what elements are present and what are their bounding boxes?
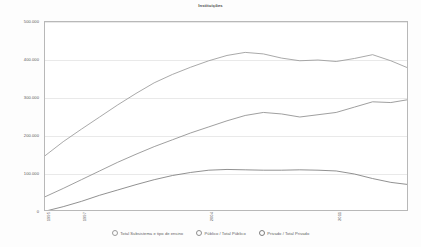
legend-item[interactable]: Privado / Total Privado (259, 230, 310, 236)
series-line (45, 52, 408, 155)
legend-marker-circle-icon (259, 230, 265, 236)
y-axis-tick-label: 200.000 (24, 133, 39, 138)
chart-title: Instituições (0, 2, 421, 9)
y-axis-labels: 500.000400.000300.000200.000100.0000 (0, 21, 42, 211)
data-lines (45, 22, 408, 211)
series-line (45, 100, 408, 197)
legend-marker-circle-icon (196, 230, 202, 236)
legend-item-label: Público / Total Público (205, 231, 246, 236)
y-axis-tick-label: 100.000 (24, 171, 39, 176)
y-axis-tick-label: 500.000 (24, 19, 39, 24)
legend-item-label: Privado / Total Privado (267, 231, 309, 236)
y-axis-tick-label: 0 (37, 209, 39, 214)
chart-container: Instituições 500.000400.000300.000200.00… (0, 0, 421, 247)
x-axis-tick-label: 2011 (337, 212, 342, 221)
legend-item[interactable]: Público / Total Público (196, 230, 246, 236)
x-axis-tick-label: 1995 (46, 212, 51, 221)
legend-marker-circle-icon (112, 230, 118, 236)
y-axis-tick-label: 300.000 (24, 95, 39, 100)
chart-legend: Total Subsistema e tipo de ensinoPúblico… (0, 230, 421, 236)
legend-item-label: Total Subsistema e tipo de ensino (120, 231, 183, 236)
y-axis-tick-label: 400.000 (24, 57, 39, 62)
legend-item[interactable]: Total Subsistema e tipo de ensino (112, 230, 183, 236)
x-axis-tick-label: 2004 (209, 212, 214, 221)
plot-area (44, 21, 408, 211)
x-axis-tick-label: 1997 (82, 212, 87, 221)
series-line (45, 169, 408, 211)
